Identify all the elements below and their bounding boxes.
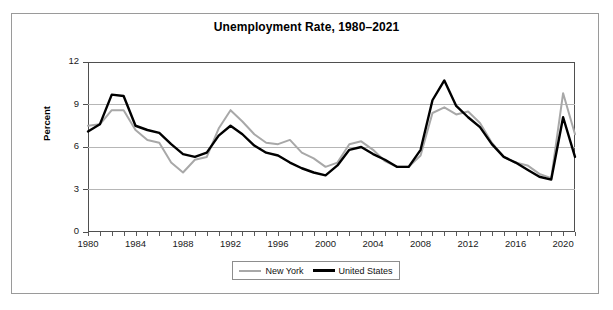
y-tick-label-3: 3 <box>39 183 79 194</box>
x-tick-mark-1987 <box>171 232 172 236</box>
x-tick-mark-2012 <box>468 232 469 236</box>
x-tick-mark-2006 <box>397 232 398 236</box>
y-axis-title: Percent <box>41 74 52 174</box>
x-tick-mark-1991 <box>219 232 220 236</box>
x-tick-mark-2002 <box>349 232 350 236</box>
series-layer <box>88 62 575 232</box>
x-tick-mark-2001 <box>337 232 338 236</box>
x-tick-mark-2008 <box>421 232 422 236</box>
legend-item-united-states[interactable]: United States <box>313 266 393 276</box>
legend-label: United States <box>339 266 393 276</box>
x-tick-label-2016: 2016 <box>494 238 538 249</box>
legend-swatch-icon <box>239 270 261 272</box>
x-tick-mark-2011 <box>456 232 457 236</box>
x-tick-mark-2013 <box>480 232 481 236</box>
y-tick-label-6: 6 <box>39 140 79 151</box>
x-tick-mark-2015 <box>504 232 505 236</box>
x-tick-mark-2021 <box>575 232 576 236</box>
x-tick-mark-1993 <box>242 232 243 236</box>
x-tick-mark-1990 <box>207 232 208 236</box>
x-tick-mark-1998 <box>302 232 303 236</box>
x-tick-mark-1982 <box>112 232 113 236</box>
plot-wrapper: 036912 198019841988199219962000200420082… <box>88 62 575 232</box>
chart-legend: New YorkUnited States <box>232 261 400 280</box>
x-tick-mark-2009 <box>432 232 433 236</box>
x-tick-label-2020: 2020 <box>541 238 585 249</box>
x-tick-label-2008: 2008 <box>399 238 443 249</box>
x-tick-mark-1994 <box>254 232 255 236</box>
x-tick-mark-1996 <box>278 232 279 236</box>
x-tick-mark-2016 <box>516 232 517 236</box>
x-tick-mark-2005 <box>385 232 386 236</box>
y-tick-label-0: 0 <box>39 225 79 236</box>
x-tick-label-1980: 1980 <box>66 238 110 249</box>
x-tick-mark-1999 <box>314 232 315 236</box>
x-tick-mark-1989 <box>195 232 196 236</box>
x-tick-label-1996: 1996 <box>256 238 300 249</box>
y-tick-label-9: 9 <box>39 98 79 109</box>
x-tick-mark-2019 <box>551 232 552 236</box>
x-tick-label-2004: 2004 <box>351 238 395 249</box>
x-tick-mark-2003 <box>361 232 362 236</box>
x-tick-mark-1995 <box>266 232 267 236</box>
legend-label: New York <box>265 266 303 276</box>
x-tick-label-2012: 2012 <box>446 238 490 249</box>
x-tick-mark-1997 <box>290 232 291 236</box>
legend-item-new-york[interactable]: New York <box>239 266 303 276</box>
x-tick-mark-2010 <box>444 232 445 236</box>
x-tick-mark-1984 <box>136 232 137 236</box>
x-tick-mark-2014 <box>492 232 493 236</box>
chart-figure: Unemployment Rate, 1980–2021 Percent 036… <box>0 0 613 310</box>
x-tick-mark-2018 <box>539 232 540 236</box>
x-tick-mark-2017 <box>527 232 528 236</box>
x-tick-label-1992: 1992 <box>209 238 253 249</box>
x-tick-mark-1981 <box>100 232 101 236</box>
x-tick-mark-1980 <box>88 232 89 236</box>
x-tick-mark-2020 <box>563 232 564 236</box>
x-tick-mark-2000 <box>326 232 327 236</box>
x-tick-label-2000: 2000 <box>304 238 348 249</box>
legend-swatch-icon <box>313 269 335 272</box>
x-tick-mark-2007 <box>409 232 410 236</box>
x-tick-mark-1988 <box>183 232 184 236</box>
x-tick-mark-1986 <box>159 232 160 236</box>
chart-title: Unemployment Rate, 1980–2021 <box>0 20 613 34</box>
x-tick-label-1984: 1984 <box>114 238 158 249</box>
x-tick-mark-1985 <box>147 232 148 236</box>
x-tick-mark-1983 <box>124 232 125 236</box>
x-tick-mark-1992 <box>231 232 232 236</box>
y-tick-label-12: 12 <box>39 55 79 66</box>
x-tick-label-1988: 1988 <box>161 238 205 249</box>
x-tick-mark-2004 <box>373 232 374 236</box>
